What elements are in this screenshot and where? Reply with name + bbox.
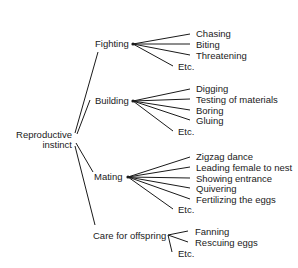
branch-building: Building xyxy=(95,96,129,106)
branch-care-for-offspring: Care for offspring xyxy=(93,231,166,241)
leaf-etc: Etc. xyxy=(178,249,194,259)
leaf-digging: Digging xyxy=(196,84,228,94)
leaf-etc: Etc. xyxy=(178,127,194,137)
root-node: Reproductive instinct xyxy=(6,130,72,150)
leaf-chasing: Chasing xyxy=(196,29,231,39)
root-label-line2: instinct xyxy=(6,140,72,150)
leaf-etc: Etc. xyxy=(178,205,194,215)
leaf-gluing: Gluing xyxy=(196,116,223,126)
leaf-quivering: Quivering xyxy=(196,184,237,194)
branch-fighting: Fighting xyxy=(95,39,129,49)
leaf-rescuing-eggs: Rescuing eggs xyxy=(195,238,258,248)
leaf-fanning: Fanning xyxy=(195,227,229,237)
leaf-etc: Etc. xyxy=(178,62,194,72)
leaf-biting: Biting xyxy=(196,40,220,50)
leaf-threatening: Threatening xyxy=(196,51,247,61)
branch-mating: Mating xyxy=(94,172,123,182)
leaf-testing-materials: Testing of materials xyxy=(196,95,278,105)
leaf-leading-female: Leading female to nest xyxy=(196,163,292,173)
leaf-fertilizing-eggs: Fertilizing the eggs xyxy=(196,195,276,205)
leaf-zigzag-dance: Zigzag dance xyxy=(196,152,253,162)
